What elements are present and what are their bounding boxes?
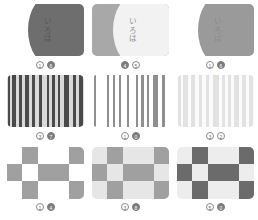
badge-row: 45	[121, 59, 140, 70]
stripe	[206, 75, 209, 127]
stripe	[213, 75, 218, 127]
checker-square-dark	[177, 164, 192, 181]
checker-square-dark	[192, 147, 207, 164]
thumb-2-1[interactable]	[7, 75, 84, 127]
thumb-1-1[interactable]: いろは	[7, 4, 84, 56]
badge-row: 16	[206, 59, 225, 70]
badge-filled: 6	[217, 61, 225, 69]
checker-square-light	[69, 164, 84, 181]
stripe	[8, 75, 10, 127]
thumb-2-3[interactable]	[177, 75, 254, 127]
checker-square-light	[177, 147, 192, 164]
checker-square-light	[7, 147, 22, 164]
stripe	[79, 75, 84, 127]
checker-square-light	[223, 181, 238, 198]
stripe	[107, 75, 109, 127]
thumb-3-3[interactable]	[177, 147, 254, 199]
stripe	[39, 75, 42, 127]
checker-square-light	[7, 181, 22, 198]
checker-square-dark	[239, 147, 254, 164]
checker-square-dark	[138, 164, 153, 181]
badge-row: 32	[206, 130, 225, 141]
stripe	[52, 75, 54, 127]
checker-square-light	[123, 181, 138, 198]
thumbnail-cell[interactable]: 32	[173, 75, 258, 146]
thumb-2-2[interactable]	[92, 75, 169, 127]
stripe	[12, 75, 16, 127]
badge-row: 50	[206, 202, 225, 213]
stripe	[228, 75, 231, 127]
badge-outline: 5	[206, 203, 214, 211]
badge-filled: 0	[217, 203, 225, 211]
checker-square-dark	[53, 164, 68, 181]
stripe	[73, 75, 76, 127]
stripe	[242, 75, 246, 127]
stripe	[64, 75, 69, 127]
badge-row: 37	[36, 130, 55, 141]
badge-row: 38	[121, 202, 140, 213]
badge-filled: 0	[132, 132, 140, 140]
thumbnail-cell[interactable]: いろは16	[3, 4, 88, 75]
checker-square-light	[107, 164, 122, 181]
checker-square-dark	[154, 181, 169, 198]
stripe	[94, 75, 96, 127]
checker-square-dark	[223, 164, 238, 181]
checker-square-dark	[107, 147, 122, 164]
checker-square-dark	[192, 181, 207, 198]
thumb-1-2[interactable]: いろは	[92, 4, 169, 56]
thumbnail-cell[interactable]: 38	[88, 147, 173, 218]
stripe	[113, 75, 115, 127]
badge-outline: 3	[121, 203, 129, 211]
checker-square-light	[138, 181, 153, 198]
checker-square-dark	[69, 147, 84, 164]
badge-outline: 3	[206, 132, 214, 140]
thumbnail-cell[interactable]: 50	[173, 147, 258, 218]
thumb-1-3[interactable]: いろは	[177, 4, 254, 56]
curved-shape	[137, 4, 169, 56]
badge-filled: 8	[132, 203, 140, 211]
checker-square-light	[92, 181, 107, 198]
badge-filled: 7	[47, 132, 55, 140]
checker-square-dark	[22, 181, 37, 198]
checker-square-light	[53, 147, 68, 164]
stripe	[183, 75, 188, 127]
stripe	[178, 75, 181, 127]
checker-square-dark	[154, 147, 169, 164]
badge-filled: 4	[47, 203, 55, 211]
thumbnail-cell[interactable]: 37	[3, 75, 88, 146]
thumbnail-cell[interactable]: いろは16	[173, 4, 258, 75]
stripe	[199, 75, 203, 127]
checker-square-light	[177, 181, 192, 198]
stripe	[249, 75, 253, 127]
badge-outline: 1	[36, 203, 44, 211]
checker-square-light	[154, 164, 169, 181]
stripe	[162, 75, 165, 127]
stripe	[147, 75, 149, 127]
checker-square-light	[223, 147, 238, 164]
checker-square-dark	[92, 164, 107, 181]
thumb-3-2[interactable]	[92, 147, 169, 199]
curved-shape	[222, 4, 254, 56]
checker-square-light	[138, 147, 153, 164]
checker-square-light	[208, 181, 223, 198]
badge-filled: 4	[121, 61, 129, 69]
stripe	[127, 75, 129, 127]
badge-row: 16	[36, 59, 55, 70]
thumbnail-cell[interactable]: 10	[88, 75, 173, 146]
stripe	[222, 75, 225, 127]
checker-square-dark	[123, 164, 138, 181]
stripe	[58, 75, 60, 127]
thumbnail-cell[interactable]: いろは45	[88, 4, 173, 75]
checker-square-light	[192, 164, 207, 181]
checker-square-light	[208, 147, 223, 164]
sample-text: いろは	[128, 17, 136, 42]
checker-square-light	[92, 147, 107, 164]
badge-filled: 6	[47, 61, 55, 69]
thumb-3-1[interactable]	[7, 147, 84, 199]
stripe	[25, 75, 28, 127]
checker-square-dark	[208, 164, 223, 181]
thumbnail-cell[interactable]: 14	[3, 147, 88, 218]
stripe	[234, 75, 239, 127]
checker-square-dark	[38, 164, 53, 181]
stripe	[136, 75, 138, 127]
